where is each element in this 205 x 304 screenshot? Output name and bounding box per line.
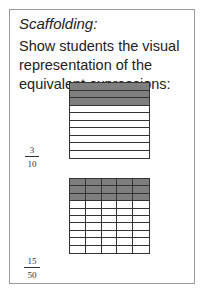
grid-cell	[117, 216, 133, 223]
numerator: 3	[25, 145, 39, 157]
denominator: 50	[24, 268, 40, 280]
shaded-cell	[86, 186, 102, 193]
card-title: Scaffolding:	[19, 15, 97, 32]
shaded-cell	[86, 179, 102, 186]
grid-cell	[133, 246, 149, 253]
grid-cell	[86, 223, 102, 230]
grid-cell	[117, 223, 133, 230]
grid-cell	[117, 246, 133, 253]
grid-cell	[86, 246, 102, 253]
grid-cell	[133, 231, 149, 238]
grid-cell	[70, 128, 149, 136]
grid-cell	[117, 231, 133, 238]
fraction-label-15-50: 15 50	[24, 256, 40, 280]
shaded-cell	[133, 179, 149, 186]
grid-cell	[102, 231, 118, 238]
grid-cell	[70, 209, 86, 216]
grid-cell	[70, 231, 86, 238]
denominator: 10	[25, 157, 39, 169]
grid-cell	[86, 201, 102, 208]
grid-cell	[133, 216, 149, 223]
grid-cell	[102, 216, 118, 223]
shaded-cell	[133, 194, 149, 201]
shaded-cell	[117, 194, 133, 201]
shaded-cell	[102, 179, 118, 186]
shaded-cell	[102, 186, 118, 193]
grid-cell	[70, 113, 149, 121]
grid-cell	[70, 216, 86, 223]
area-model-3-10	[69, 82, 150, 159]
shaded-cell	[117, 179, 133, 186]
grid-cell	[70, 136, 149, 144]
grid-cell	[86, 238, 102, 245]
grid-cell	[133, 201, 149, 208]
shaded-cell	[86, 194, 102, 201]
shaded-cell	[102, 194, 118, 201]
shaded-cell	[70, 186, 86, 193]
grid-cell	[102, 238, 118, 245]
grid-cell	[102, 223, 118, 230]
grid-cell	[86, 216, 102, 223]
grid-cell	[70, 223, 86, 230]
fraction-label-3-10: 3 10	[25, 145, 39, 169]
grid-cell	[70, 201, 86, 208]
shaded-cell	[70, 91, 149, 99]
grid-cell	[117, 201, 133, 208]
grid-cell	[102, 209, 118, 216]
grid-cell	[70, 151, 149, 159]
grid-cell	[117, 238, 133, 245]
grid-cell	[133, 223, 149, 230]
shaded-cell	[70, 83, 149, 91]
grid-cell	[117, 209, 133, 216]
grid-cell	[133, 238, 149, 245]
area-model-15-50	[69, 178, 150, 254]
shaded-cell	[117, 186, 133, 193]
shaded-cell	[133, 186, 149, 193]
numerator: 15	[24, 256, 40, 268]
grid-cell	[86, 231, 102, 238]
grid-cell	[86, 209, 102, 216]
grid-cell	[102, 246, 118, 253]
grid-cell	[70, 121, 149, 129]
grid-cell	[102, 201, 118, 208]
grid-cell	[70, 143, 149, 151]
shaded-cell	[70, 194, 86, 201]
shaded-cell	[70, 98, 149, 106]
shaded-cell	[70, 179, 86, 186]
grid-cell	[70, 106, 149, 114]
grid-cell	[133, 209, 149, 216]
grid-cell	[70, 238, 86, 245]
grid-cell	[70, 246, 86, 253]
